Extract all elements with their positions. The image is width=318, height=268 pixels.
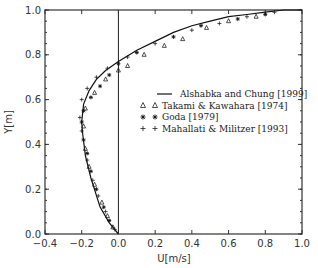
plus-marker-icon: [190, 28, 194, 32]
velocity-profile-chart: −0.4−0.20.00.20.40.60.81.00.00.20.40.60.…: [0, 0, 318, 268]
y-tick-label: 0.6: [25, 94, 41, 105]
asterisk-marker-icon: [89, 169, 93, 173]
x-tick-label: 0.6: [221, 238, 237, 249]
x-tick-label: 0.2: [147, 238, 163, 249]
triangle-marker-icon: [142, 52, 146, 56]
plus-marker-icon: [80, 98, 84, 102]
y-axis-title: Y[m]: [3, 110, 14, 135]
x-tick-label: −0.2: [70, 238, 94, 249]
asterisk-marker-icon: [116, 62, 120, 66]
triangle-marker-icon: [153, 103, 158, 108]
triangle-marker-icon: [162, 43, 166, 47]
triangle-marker-icon: [254, 14, 258, 18]
plus-marker-icon: [78, 116, 82, 120]
series-line: [82, 10, 302, 234]
y-tick-label: 0.0: [25, 229, 41, 240]
triangle-marker-icon: [100, 200, 104, 204]
triangle-marker-icon: [126, 64, 130, 68]
x-tick-label: 0.4: [184, 238, 200, 249]
legend-item: Alshabka and Chung [1999]: [157, 89, 307, 99]
asterisk-marker-icon: [236, 17, 240, 21]
x-axis-title: U[m/s]: [157, 253, 191, 264]
triangle-marker-icon: [93, 90, 97, 94]
asterisk-marker-icon: [153, 115, 158, 120]
model-curve: [82, 10, 302, 234]
triangle-marker-icon: [181, 37, 185, 41]
triangle-marker-icon: [227, 19, 231, 23]
y-tick-label: 1.0: [25, 5, 41, 16]
asterisk-marker-icon: [263, 12, 267, 16]
legend-label: Alshabka and Chung [1999]: [179, 89, 307, 99]
series-layer: [78, 10, 302, 234]
legend-label: Mahallati & Militzer [1993]: [162, 124, 288, 134]
x-tick-label: 0.0: [110, 238, 126, 249]
asterisk-marker-icon: [107, 219, 111, 223]
asterisk-marker-icon: [80, 120, 84, 124]
asterisk-marker-icon: [135, 51, 139, 55]
asterisk-marker-icon: [94, 187, 98, 191]
plus-marker-icon: [85, 86, 89, 90]
x-tick-label: 1.0: [294, 238, 310, 249]
y-tick-label: 0.8: [25, 49, 41, 60]
plus-marker-icon: [245, 15, 249, 19]
asterisk-marker-icon: [82, 138, 86, 142]
x-tick-label: 0.8: [257, 238, 273, 249]
legend-item: Mahallati & Militzer [1993]: [141, 124, 288, 134]
triangle-marker-icon: [104, 77, 108, 81]
asterisk-marker-icon: [107, 73, 111, 77]
legend-label: Takami & Kawahara [1974]: [162, 101, 287, 111]
triangle-marker-icon: [93, 182, 97, 186]
asterisk-marker-icon: [199, 24, 203, 28]
triangle-marker-icon: [141, 103, 146, 108]
asterisk-marker-icon: [141, 115, 146, 120]
legend-item: Goda [1979]: [141, 112, 219, 122]
plus-marker-icon: [217, 21, 221, 25]
asterisk-marker-icon: [89, 95, 93, 99]
triangle-marker-icon: [205, 25, 209, 29]
triangle-marker-icon: [105, 214, 109, 218]
legend-item: Takami & Kawahara [1974]: [141, 101, 288, 111]
asterisk-marker-icon: [98, 84, 102, 88]
legend: Alshabka and Chung [1999]Takami & Kawaha…: [141, 89, 308, 134]
asterisk-marker-icon: [85, 151, 89, 155]
plus-marker-icon: [153, 126, 158, 131]
plus-marker-icon: [141, 126, 146, 131]
y-tick-label: 0.2: [25, 184, 41, 195]
x-tick-label: −0.4: [33, 238, 57, 249]
asterisk-marker-icon: [172, 35, 176, 39]
asterisk-marker-icon: [102, 205, 106, 209]
legend-label: Goda [1979]: [162, 112, 219, 122]
y-tick-label: 0.4: [25, 139, 41, 150]
